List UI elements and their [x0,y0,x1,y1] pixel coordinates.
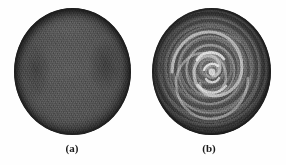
disc-b-rim [152,8,271,135]
figure-root: (a) [0,0,286,165]
panel-b-caption: (b) [179,142,239,154]
panel-a-caption: (a) [42,142,102,154]
disc-a-rim [14,8,131,135]
disc-image-a [14,8,131,135]
disc-image-b [152,8,271,135]
